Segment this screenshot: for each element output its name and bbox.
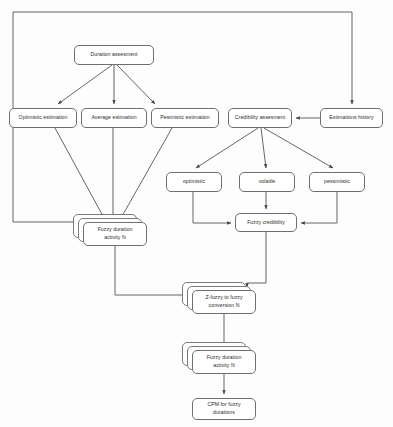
node-fuzzy-duration-activity-n-2[interactable]: Fuzzy duration activity N <box>192 350 256 374</box>
edge-fuzzyduration-to-zfuzzy <box>115 246 188 295</box>
edge-credibility-to-volatile <box>261 128 266 168</box>
edge-duration-to-pesimistic <box>117 65 155 104</box>
node-duration-assesment[interactable]: Duration assesment <box>74 45 154 65</box>
edge-pesimistic-est-to-fuzzy <box>121 128 172 218</box>
node-volatile[interactable]: volatile <box>239 172 295 192</box>
node-optimistic[interactable]: optimistic <box>166 172 222 192</box>
edge-credibility-to-optimistic <box>196 128 258 168</box>
node-optimistic-estimation[interactable]: Optimistic estimation <box>9 108 77 128</box>
node-zfuzzy-to-fuzzy-conversion-n[interactable]: Z-fuzzy to fuzzy conversion N <box>192 290 256 314</box>
node-cpm-for-fuzzy-durations[interactable]: CPM for fuzzy durations <box>192 398 256 420</box>
edge-fuzzycred-to-zfuzzy <box>247 232 266 287</box>
node-estimations-history[interactable]: Estimations history <box>320 108 383 128</box>
node-average-estimation[interactable]: Average estimation <box>81 108 147 128</box>
edge-optimistic-est-to-fuzzy <box>55 128 104 218</box>
node-pessimistic[interactable]: pessimistic <box>309 172 365 192</box>
edge-optimistic-to-fuzzycred <box>193 192 231 223</box>
node-fuzzy-credibility[interactable]: Fuzzy credibility <box>235 213 297 232</box>
edge-credibility-to-pessimistic <box>264 128 333 168</box>
flowchart-diagram: Duration assesment Optimistic estimation… <box>0 0 393 427</box>
node-credibility-assesment[interactable]: Credibility assesment <box>228 108 292 128</box>
edge-pessimistic-to-fuzzycred <box>301 192 337 223</box>
edge-duration-to-optimistic <box>58 65 112 104</box>
node-fuzzy-duration-activity-n-1[interactable]: Fuzzy duration activity N <box>83 222 147 246</box>
node-pesimistic-estimation[interactable]: Pesimistic estimation <box>151 108 219 128</box>
